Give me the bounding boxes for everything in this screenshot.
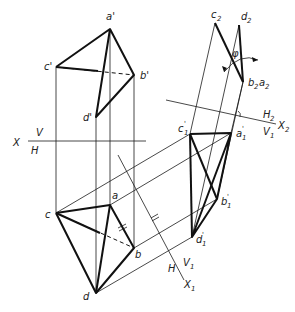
label-a-prime: a'	[106, 11, 115, 22]
svg-text:2: 2	[270, 115, 275, 123]
axis-x1: H V 1 X 1	[118, 155, 195, 293]
svg-text:': '	[227, 193, 229, 201]
svg-text:1: 1	[202, 240, 206, 248]
axis-h-label: H	[31, 145, 39, 156]
svg-text:': '	[242, 125, 244, 133]
label-d: d	[83, 291, 90, 302]
svg-text:2: 2	[265, 83, 270, 91]
label-c: c	[45, 209, 51, 220]
h-to-v1-projectors	[56, 133, 231, 293]
svg-text:1: 1	[184, 129, 188, 137]
equal-tick	[151, 214, 158, 218]
svg-text:': '	[202, 231, 204, 239]
axis-xvh: X V H	[12, 127, 146, 156]
svg-text:1: 1	[190, 263, 194, 271]
auxiliary-projection-h2: φ	[215, 23, 258, 82]
label-b: b	[135, 249, 141, 260]
projection-diagram: X V H H V 1 X 1 H 2 V 1 X 2	[0, 0, 295, 312]
svg-text:1: 1	[227, 202, 231, 210]
label-c-prime: c'	[44, 61, 52, 72]
label-d-prime: d'	[83, 112, 92, 123]
svg-text:': '	[184, 120, 186, 128]
svg-text:2: 2	[217, 15, 222, 23]
axis-x-label: X	[12, 137, 21, 148]
frontal-projection	[56, 29, 134, 117]
svg-text:2: 2	[247, 17, 252, 25]
auxiliary-projection-v1	[190, 133, 231, 237]
svg-text:1: 1	[242, 134, 246, 142]
axis-v-label: V	[36, 127, 44, 138]
svg-text:1: 1	[270, 132, 274, 140]
svg-text:1: 1	[191, 285, 195, 293]
axis-x1-h-label: H	[168, 263, 176, 274]
horizontal-projection	[56, 205, 159, 293]
svg-text:2: 2	[285, 126, 290, 134]
label-b-prime: b'	[140, 70, 149, 81]
label-a: a	[112, 190, 118, 201]
angle-phi-label: φ	[232, 48, 239, 59]
